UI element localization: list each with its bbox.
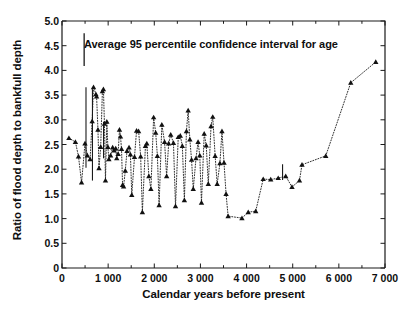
data-error-bars	[86, 87, 283, 180]
y-tick-label: 0	[33, 262, 59, 274]
x-tick-label: 1 000	[95, 272, 121, 284]
x-tick-label: 2 000	[141, 272, 167, 284]
x-tick-label: 7 000	[372, 272, 398, 284]
y-tick-label: 4.0	[33, 64, 59, 76]
y-tick-label: 2.0	[33, 163, 59, 175]
y-tick-label: 1.5	[33, 188, 59, 200]
y-axis-tick-labels: 5.0 4.5 4.0 3.5 3.0 2.5 2.0 1.5 1.0 0.5 …	[31, 0, 59, 317]
confidence-interval-annotation-text: Average 95 percentile confidence interva…	[84, 38, 338, 50]
x-tick-label: 0	[59, 272, 65, 284]
y-tick-label: 2.5	[33, 139, 59, 151]
x-axis-title: Calendar years before present	[62, 288, 385, 300]
axis-tick-marks	[62, 21, 385, 268]
x-tick-label: 5 000	[280, 272, 306, 284]
y-axis-title: Ratio of flood depth to bankfull depth	[11, 40, 23, 241]
y-tick-label: 0.5	[33, 237, 59, 249]
flood-depth-ratio-chart: Ratio of flood depth to bankfull depth 5…	[0, 0, 405, 317]
y-tick-label: 3.5	[33, 89, 59, 101]
data-series-line	[69, 62, 376, 218]
x-tick-label: 4 000	[233, 272, 259, 284]
x-tick-label: 3 000	[187, 272, 213, 284]
y-axis-title-container: Ratio of flood depth to bankfull depth	[0, 0, 34, 280]
axes-frame	[62, 21, 385, 268]
y-tick-label: 4.5	[33, 40, 59, 52]
y-tick-label: 3.0	[33, 114, 59, 126]
x-tick-label: 6 000	[326, 272, 352, 284]
y-tick-label: 1.0	[33, 213, 59, 225]
y-tick-label: 5.0	[33, 15, 59, 27]
